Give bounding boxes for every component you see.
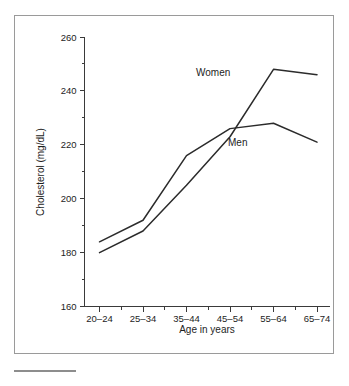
y-tick-label: 160 [61, 301, 77, 312]
x-axis-ticks [100, 307, 318, 312]
series-label-women: Women [196, 67, 230, 78]
y-axis-title: Cholesterol (mg/dL) [35, 128, 46, 216]
x-axis-title: Age in years [179, 324, 235, 335]
y-tick-label: 200 [61, 193, 77, 204]
figure-page: 160180200220240260 20–2425–3435–4445–545… [0, 0, 349, 386]
x-tick-label: 65–74 [304, 313, 330, 324]
y-axis-tick-labels: 160180200220240260 [61, 32, 77, 313]
cholesterol-line-chart: 160180200220240260 20–2425–3435–4445–545… [0, 0, 349, 386]
y-tick-label: 240 [61, 85, 77, 96]
caption-rule [14, 370, 76, 372]
y-tick-label: 180 [61, 247, 77, 258]
y-tick-label: 220 [61, 139, 77, 150]
series-line-men [100, 123, 318, 242]
x-tick-label: 25–34 [130, 313, 156, 324]
x-axis-tick-labels: 20–2425–3435–4445–5455–6465–74 [86, 313, 330, 324]
x-tick-label: 35–44 [173, 313, 199, 324]
x-tick-label: 55–64 [260, 313, 286, 324]
series-label-men: Men [228, 137, 247, 148]
y-tick-label: 260 [61, 32, 77, 43]
x-tick-label: 20–24 [86, 313, 112, 324]
x-tick-label: 45–54 [217, 313, 243, 324]
y-axis-ticks [80, 37, 85, 307]
